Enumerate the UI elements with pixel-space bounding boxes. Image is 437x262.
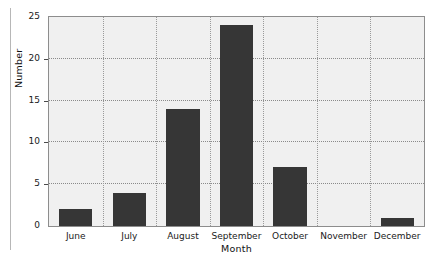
x-tick-label: June [49, 231, 103, 241]
gridline-vertical [317, 17, 318, 226]
plot-area [48, 16, 425, 227]
plot-inner [49, 17, 424, 226]
bar [113, 193, 146, 226]
x-tick-label: October [263, 231, 317, 241]
bar [220, 25, 253, 226]
gridline-vertical [263, 17, 264, 226]
gridline-vertical [156, 17, 157, 226]
x-tick-label: November [317, 231, 371, 241]
bar-chart-figure: Number 0510152025 JuneJulyAugustSeptembe… [0, 0, 437, 262]
bar [273, 167, 306, 226]
gridline-vertical [210, 17, 211, 226]
bar [166, 109, 199, 226]
y-tick-label: 0 [18, 220, 40, 230]
x-tick-label: September [210, 231, 264, 241]
x-tick-label: December [370, 231, 424, 241]
gridline-vertical [370, 17, 371, 226]
y-tick-label: 5 [18, 178, 40, 188]
x-tick-label: July [103, 231, 157, 241]
y-tick-label: 15 [18, 95, 40, 105]
y-tick-label: 10 [18, 136, 40, 146]
bar [59, 209, 92, 226]
y-tick-label: 25 [18, 11, 40, 21]
y-tick-label: 20 [18, 53, 40, 63]
gridline-vertical [103, 17, 104, 226]
bar [381, 218, 414, 226]
x-axis-title: Month [48, 243, 425, 254]
x-tick-label: August [156, 231, 210, 241]
